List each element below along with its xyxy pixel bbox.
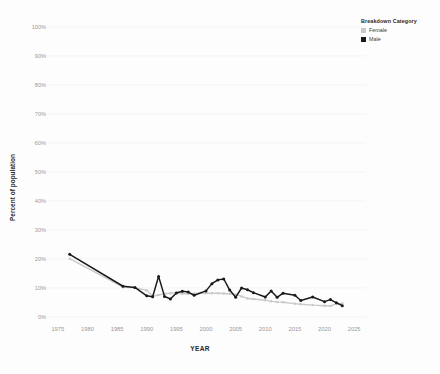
data-point: [282, 301, 285, 304]
data-point: [145, 289, 148, 292]
y-tick-label: 20%: [16, 256, 46, 262]
data-point: [311, 295, 314, 298]
gridlines: [46, 27, 366, 317]
data-point: [270, 300, 273, 303]
data-point: [294, 302, 297, 305]
data-point: [270, 289, 273, 292]
y-tick-label: 100%: [16, 24, 46, 30]
y-tick-label: 70%: [16, 111, 46, 117]
x-tick-label: 2025: [334, 326, 374, 332]
y-tick-label: 80%: [16, 82, 46, 88]
data-point: [299, 299, 302, 302]
data-point: [145, 294, 148, 297]
data-point: [157, 275, 160, 278]
data-point: [329, 305, 332, 308]
data-point: [217, 292, 220, 295]
legend-swatch-female: [361, 28, 366, 33]
data-point: [276, 296, 279, 299]
y-axis-title-text: Percent of population: [10, 153, 17, 220]
data-point: [187, 291, 190, 294]
x-axis-title: YEAR: [0, 345, 400, 352]
y-tick-label: 60%: [16, 140, 46, 146]
y-tick-label: 90%: [16, 53, 46, 59]
y-tick-label: 40%: [16, 198, 46, 204]
data-point: [293, 294, 296, 297]
data-point: [228, 293, 231, 296]
data-point: [205, 289, 208, 292]
legend-title: Breakdown Category: [361, 17, 437, 25]
y-tick-label: 30%: [16, 227, 46, 233]
legend-item-male[interactable]: Male: [361, 35, 437, 43]
data-point: [163, 295, 166, 298]
data-point: [335, 301, 338, 304]
data-point: [181, 293, 184, 296]
data-point: [323, 304, 326, 307]
y-tick-label: 50%: [16, 169, 46, 175]
data-point: [282, 292, 285, 295]
data-point: [252, 291, 255, 294]
data-point: [216, 278, 219, 281]
data-point: [223, 292, 226, 295]
data-point: [240, 287, 243, 290]
data-point: [193, 294, 196, 297]
legend-label-female: Female: [369, 26, 387, 34]
data-point: [323, 300, 326, 303]
data-point: [341, 304, 344, 307]
data-point: [169, 298, 172, 301]
data-point: [68, 253, 71, 256]
data-point: [122, 285, 125, 288]
data-point: [228, 289, 231, 292]
data-point: [246, 288, 249, 291]
data-point: [222, 278, 225, 281]
data-point: [211, 292, 214, 295]
data-point: [157, 294, 160, 297]
data-point: [252, 298, 255, 301]
data-point: [300, 303, 303, 306]
legend: Breakdown Category Female Male: [361, 17, 437, 43]
legend-label-male: Male: [369, 35, 381, 43]
data-point: [169, 292, 172, 295]
y-tick-label: 10%: [16, 285, 46, 291]
data-point: [210, 282, 213, 285]
data-point: [246, 297, 249, 300]
data-point: [175, 291, 178, 294]
data-point: [311, 304, 314, 307]
y-axis-title: Percent of population: [6, 132, 20, 242]
legend-item-female[interactable]: Female: [361, 26, 437, 34]
y-tick-label: 0%: [16, 314, 46, 320]
data-point: [264, 299, 267, 302]
chart-figure: 0%10%20%30%40%50%60%70%80%90%100% 197519…: [0, 0, 440, 374]
data-point: [181, 290, 184, 293]
data-point: [240, 295, 243, 298]
data-point: [133, 286, 136, 289]
data-point: [151, 295, 154, 298]
legend-swatch-male: [361, 37, 366, 42]
data-point: [276, 301, 279, 304]
chart-plot-area: [0, 0, 440, 374]
data-point: [329, 298, 332, 301]
data-point: [234, 296, 237, 299]
data-point: [68, 257, 71, 260]
data-point: [264, 295, 267, 298]
